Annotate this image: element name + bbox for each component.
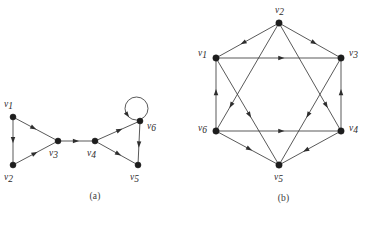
vertex-label-v3: v3 xyxy=(349,48,358,60)
edge-v2-to-v3-arrowhead xyxy=(310,39,317,44)
panel-b-caption: (b) xyxy=(190,193,377,203)
vertex-v6 xyxy=(137,118,143,124)
digraph-a-canvas: v1v2v3v4v5v6 xyxy=(0,0,190,190)
digraph-b-canvas: v1v2v3v4v5v6 xyxy=(190,0,377,192)
vertex-label-v4: v4 xyxy=(349,123,358,135)
edge-v1-to-v3-arrowhead xyxy=(30,125,37,130)
edge-v6-to-v5-arrowhead xyxy=(137,141,141,147)
vertex-label-v3: v3 xyxy=(49,148,58,160)
edge-v1-to-v2-arrowhead xyxy=(11,137,16,143)
vertex-label-v2: v2 xyxy=(275,5,284,17)
vertex-v2 xyxy=(276,20,282,26)
edge-v2-to-v6-arrowhead xyxy=(229,101,234,107)
edge-v4-to-v5-arrowhead xyxy=(303,147,310,152)
vertex-label-v4: v4 xyxy=(87,148,96,160)
graph-panel-b: v1v2v3v4v5v6 (b) xyxy=(190,0,377,226)
vertex-label-v1: v1 xyxy=(198,48,207,60)
vertex-label-v6: v6 xyxy=(198,123,207,135)
edge-v6-to-v6-arrowhead xyxy=(124,111,129,117)
edge-v6-to-v5-arrowhead xyxy=(246,146,253,151)
edge-v2-to-v1 xyxy=(218,24,276,56)
vertex-v1 xyxy=(10,114,16,120)
vertex-label-v5: v5 xyxy=(274,172,283,184)
vertex-v6 xyxy=(213,128,219,134)
vertex-v2 xyxy=(10,162,16,168)
edge-v2-to-v3-arrowhead xyxy=(31,152,38,157)
edge-v4-to-v5-arrowhead xyxy=(115,151,122,156)
vertex-v1 xyxy=(213,55,219,61)
edge-v6-to-v4-arrowhead xyxy=(278,129,284,134)
vertex-label-v2: v2 xyxy=(4,172,13,184)
panel-a-caption: (a) xyxy=(0,191,190,201)
edge-v4-to-v3-arrowhead xyxy=(339,89,344,95)
edge-v6-to-v1-arrowhead xyxy=(214,89,219,95)
graph-panel-a: v1v2v3v4v5v6 (a) xyxy=(0,0,190,226)
vertex-v3 xyxy=(338,55,344,61)
vertex-label-v1: v1 xyxy=(4,99,13,111)
edge-v2-to-v4-arrowhead xyxy=(323,101,328,107)
edge-v3-to-v4-arrowhead xyxy=(73,139,79,144)
vertex-label-v5: v5 xyxy=(130,172,139,184)
vertex-v4 xyxy=(338,128,344,134)
edge-v1-to-v3-arrowhead xyxy=(278,56,284,61)
vertex-v5 xyxy=(135,162,141,168)
edge-v3-to-v5 xyxy=(280,60,339,162)
edge-v4-to-v6-arrowhead xyxy=(116,129,123,134)
edge-v2-to-v1-arrowhead xyxy=(241,39,248,44)
edge-v1-to-v5-arrowhead xyxy=(246,111,251,117)
vertex-v3 xyxy=(55,138,61,144)
edge-v3-to-v5-arrowhead xyxy=(306,111,311,117)
vertex-v5 xyxy=(276,162,282,168)
figure-root: v1v2v3v4v5v6 (a) v1v2v3v4v5v6 (b) xyxy=(0,0,377,226)
vertex-label-v6: v6 xyxy=(147,121,156,133)
edge-v2-to-v3 xyxy=(281,24,338,56)
vertex-v4 xyxy=(92,138,98,144)
edge-v4-to-v5 xyxy=(281,132,338,163)
